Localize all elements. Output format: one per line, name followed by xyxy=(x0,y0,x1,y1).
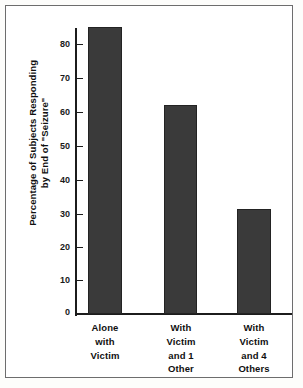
x-category-label-2-line-1: Victim xyxy=(223,335,285,349)
y-tick-label-60: 60 xyxy=(46,108,70,117)
y-tick-mark-40 xyxy=(77,180,83,181)
x-category-label-1-line-0: With xyxy=(150,321,212,335)
bar-alone-with-victim xyxy=(88,27,122,314)
y-tick-mark-30 xyxy=(77,214,83,215)
x-category-label-2-line-0: With xyxy=(223,321,285,335)
x-category-label-2-line-2: and 4 xyxy=(223,349,285,363)
y-tick-label-0: 0 xyxy=(46,308,70,317)
x-category-label-0-line-1: with xyxy=(74,335,136,349)
y-tick-mark-10 xyxy=(77,280,83,281)
y-tick-mark-0 xyxy=(77,313,83,314)
y-tick-label-50: 50 xyxy=(46,142,70,151)
x-category-label-1-line-3: Other xyxy=(150,362,212,376)
y-tick-mark-20 xyxy=(77,247,83,248)
y-tick-label-10: 10 xyxy=(46,276,70,285)
figure-frame: Percentage of Subjects Responding by End… xyxy=(5,5,293,378)
x-category-label-2-line-3: Others xyxy=(223,362,285,376)
bar-with-victim-and-4-others xyxy=(237,209,271,314)
y-tick-mark-70 xyxy=(77,78,83,79)
y-axis-title-line-1: Percentage of Subjects Responding xyxy=(27,60,38,226)
y-tick-label-40: 40 xyxy=(46,176,70,185)
y-tick-mark-60 xyxy=(77,112,83,113)
y-tick-label-30: 30 xyxy=(46,210,70,219)
y-tick-label-20: 20 xyxy=(46,243,70,252)
x-category-label-2: With Victim and 4 Others xyxy=(223,321,285,376)
figure: Percentage of Subjects Responding by End… xyxy=(0,0,303,388)
y-axis-line xyxy=(75,28,77,316)
y-tick-mark-50 xyxy=(77,146,83,147)
x-category-label-0-line-0: Alone xyxy=(74,321,136,335)
y-tick-label-70: 70 xyxy=(46,74,70,83)
y-tick-mark-80 xyxy=(77,44,83,45)
x-category-label-1-line-1: Victim xyxy=(150,335,212,349)
bar-with-victim-and-1-other xyxy=(164,105,197,314)
x-category-label-1: With Victim and 1 Other xyxy=(150,321,212,376)
x-category-label-0-line-2: Victim xyxy=(74,349,136,363)
x-category-label-0: Alone with Victim xyxy=(74,321,136,362)
x-category-label-1-line-2: and 1 xyxy=(150,349,212,363)
y-tick-label-80: 80 xyxy=(46,40,70,49)
